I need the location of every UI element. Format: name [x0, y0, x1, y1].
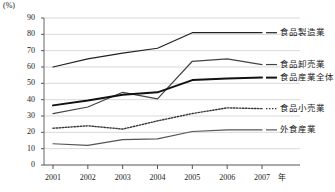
legend-item-label: 食品産業全体 [280, 73, 334, 82]
x-axis-tick-label: 2002 [71, 174, 105, 182]
y-axis-tick-label: 70 [13, 47, 35, 55]
legend-swatches [266, 33, 277, 130]
y-axis-tick-label: 40 [13, 96, 35, 104]
y-axis-tick-label: 60 [13, 63, 35, 71]
x-axis-tick-label: 2004 [141, 174, 175, 182]
y-axis-tick-label: 30 [13, 112, 35, 120]
data-line [53, 78, 262, 106]
legend-item-label: 食品製造業 [280, 28, 325, 37]
y-axis-tick-label: 50 [13, 79, 35, 87]
x-axis-tick-label: 2005 [175, 174, 209, 182]
data-line [53, 108, 262, 129]
x-axis-unit-label: 年 [278, 174, 286, 182]
data-line [53, 33, 262, 67]
y-axis-tick-label: 80 [13, 30, 35, 38]
gridlines [41, 18, 300, 165]
legend-item-label: 食品卸売業 [280, 60, 325, 69]
x-axis-tick-label: 2001 [36, 174, 70, 182]
x-axis-tick-label: 2003 [106, 174, 140, 182]
x-axis-tick-label: 2006 [210, 174, 244, 182]
legend-item-label: 外食産業 [280, 125, 316, 134]
line-chart: (%) 9080706050403020100 2001200220032004… [0, 0, 335, 192]
x-axis-tick-marks [53, 165, 262, 169]
y-axis-tick-label: 90 [13, 14, 35, 22]
y-axis-tick-label: 0 [13, 161, 35, 169]
x-axis-tick-label: 2007 [245, 174, 279, 182]
y-axis-tick-label: 10 [13, 145, 35, 153]
legend-item-label: 食品小売業 [280, 104, 325, 113]
y-axis-tick-label: 20 [13, 128, 35, 136]
data-series-group [53, 33, 262, 146]
